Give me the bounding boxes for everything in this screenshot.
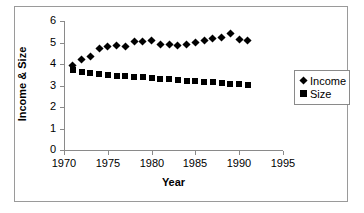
- x-tick: [108, 151, 109, 155]
- data-point-size: [157, 76, 163, 82]
- data-point-income: [139, 37, 147, 45]
- x-tick: [152, 151, 153, 155]
- y-tick-label: 2: [38, 101, 56, 112]
- chart-legend: Income Size: [294, 70, 350, 105]
- y-tick-label-wrap: 2: [38, 101, 56, 112]
- y-tick-label-wrap: 4: [38, 58, 56, 69]
- y-tick-label: 0: [38, 144, 56, 155]
- x-axis-line: [64, 150, 283, 151]
- data-point-income: [121, 43, 129, 51]
- legend-item-size: Size: [299, 87, 345, 100]
- legend-item-income: Income: [299, 74, 345, 87]
- y-tick-label-wrap: 5: [38, 37, 56, 48]
- y-tick-label: 5: [38, 37, 56, 48]
- y-tick: [60, 86, 64, 87]
- data-point-size: [70, 67, 76, 73]
- data-point-size: [87, 70, 93, 76]
- y-tick-label-wrap: 1: [38, 123, 56, 134]
- data-point-size: [201, 79, 207, 85]
- data-point-size: [184, 78, 190, 84]
- y-axis-title: Income & Size: [16, 24, 28, 144]
- data-point-size: [79, 69, 85, 75]
- x-axis-title: Year: [64, 176, 283, 188]
- data-point-income: [209, 34, 217, 42]
- data-point-size: [114, 73, 120, 79]
- legend-label-size: Size: [310, 88, 331, 100]
- data-point-income: [200, 36, 208, 44]
- data-point-size: [210, 79, 216, 85]
- y-tick: [60, 129, 64, 130]
- data-point-income: [226, 29, 234, 37]
- x-tick-label: 1970: [44, 157, 84, 169]
- y-tick-label-wrap: 0: [38, 144, 56, 155]
- chart-plot-area: 0123456 197019751980198519901995 Year In…: [0, 0, 364, 213]
- x-tick-label: 1985: [175, 157, 215, 169]
- y-axis-line: [64, 21, 65, 151]
- diamond-icon: [299, 77, 307, 85]
- data-point-income: [104, 43, 112, 51]
- x-tick: [283, 151, 284, 155]
- data-point-income: [86, 52, 94, 60]
- data-point-size: [105, 72, 111, 78]
- x-tick: [195, 151, 196, 155]
- x-tick-label: 1995: [263, 157, 303, 169]
- square-icon: [299, 90, 307, 98]
- data-point-size: [166, 76, 172, 82]
- y-tick-label: 4: [38, 58, 56, 69]
- x-tick-label: 1975: [88, 157, 128, 169]
- data-point-size: [175, 77, 181, 83]
- data-point-size: [140, 74, 146, 80]
- y-tick: [60, 64, 64, 65]
- data-point-size: [192, 78, 198, 84]
- data-point-size: [245, 82, 251, 88]
- data-point-income: [191, 38, 199, 46]
- data-point-size: [219, 80, 225, 86]
- data-point-size: [149, 75, 155, 81]
- data-point-income: [95, 45, 103, 53]
- data-point-income: [183, 41, 191, 49]
- data-point-income: [244, 36, 252, 44]
- data-point-income: [156, 41, 164, 49]
- y-tick: [60, 107, 64, 108]
- data-point-size: [96, 71, 102, 77]
- x-tick-label: 1980: [132, 157, 172, 169]
- y-tick-label-wrap: 3: [38, 80, 56, 91]
- y-tick-label: 6: [38, 15, 56, 26]
- data-point-income: [130, 37, 138, 45]
- y-tick-label-wrap: 6: [38, 15, 56, 26]
- x-tick: [64, 151, 65, 155]
- legend-label-income: Income: [310, 75, 346, 87]
- data-point-size: [131, 74, 137, 80]
- data-point-size: [236, 81, 242, 87]
- data-point-income: [112, 42, 120, 50]
- data-point-income: [174, 42, 182, 50]
- y-tick: [60, 21, 64, 22]
- y-tick: [60, 43, 64, 44]
- data-point-income: [165, 41, 173, 49]
- y-tick-label: 3: [38, 80, 56, 91]
- x-tick: [239, 151, 240, 155]
- y-tick-label: 1: [38, 123, 56, 134]
- data-point-size: [227, 81, 233, 87]
- data-point-size: [122, 73, 128, 79]
- data-point-income: [148, 36, 156, 44]
- data-point-income: [77, 56, 85, 64]
- data-point-income: [235, 35, 243, 43]
- x-tick-label: 1990: [219, 157, 259, 169]
- data-point-income: [218, 33, 226, 41]
